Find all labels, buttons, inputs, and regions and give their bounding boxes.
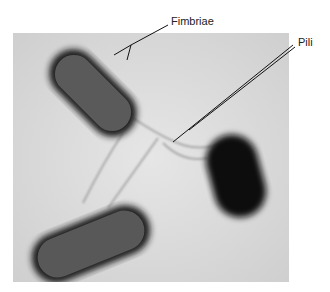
label-pili: Pili — [298, 36, 313, 48]
label-fimbriae: Fimbriae — [171, 15, 214, 27]
leader-lines — [0, 0, 330, 292]
